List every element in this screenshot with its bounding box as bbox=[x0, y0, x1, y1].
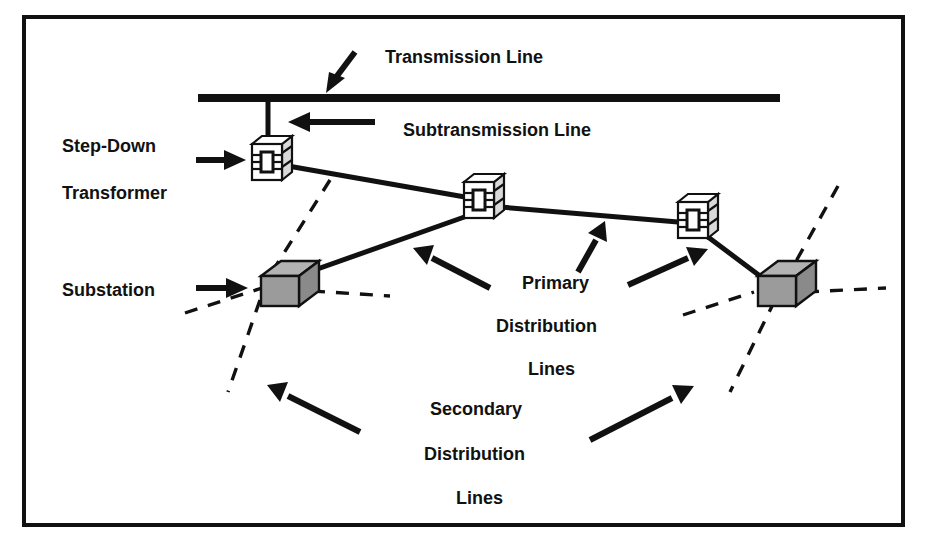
label-secondary: Secondary bbox=[430, 399, 522, 419]
transmission-line-bar bbox=[198, 94, 780, 102]
label-subtransmission-line: Subtransmission Line bbox=[403, 120, 591, 140]
label-primary: Primary bbox=[522, 273, 589, 293]
label-step-down: Step-Down bbox=[62, 136, 156, 156]
label-substation: Substation bbox=[62, 280, 155, 300]
power-grid-diagram: Transmission Line Subtransmission Line S… bbox=[0, 0, 925, 543]
label-transmission-line: Transmission Line bbox=[385, 47, 543, 67]
transformer-icon-1 bbox=[252, 136, 292, 180]
label-primary-distribution: Distribution bbox=[496, 316, 597, 336]
label-primary-lines: Lines bbox=[528, 359, 575, 379]
transformer-icon-2 bbox=[464, 174, 504, 218]
label-secondary-distribution: Distribution bbox=[424, 444, 525, 464]
label-secondary-lines: Lines bbox=[456, 488, 503, 508]
transformer-icon-3 bbox=[678, 194, 718, 238]
figure-canvas: Transmission Line Subtransmission Line S… bbox=[0, 0, 925, 543]
label-transformer: Transformer bbox=[62, 183, 167, 203]
